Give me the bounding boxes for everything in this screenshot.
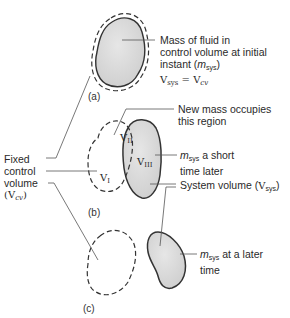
label-short-time-later: msys a short time later	[180, 149, 234, 177]
panel-a-shapes	[92, 14, 149, 91]
control-volume-c	[87, 230, 135, 294]
caption-b: (b)	[88, 207, 100, 218]
region-label-I: VI	[100, 172, 110, 187]
region-label-II: VII	[120, 132, 133, 147]
label-fixed-control-volume: Fixed control volume (Vcv)	[4, 153, 38, 204]
panel-c-shapes	[87, 230, 185, 294]
region-label-III: VIII	[137, 156, 153, 171]
label-new-mass: New mass occupies this region	[178, 103, 271, 127]
caption-a: (a)	[88, 91, 100, 102]
label-system-volume: System volume (Vsys)	[180, 179, 279, 195]
system-blob-a	[96, 18, 145, 87]
caption-c: (c)	[83, 303, 95, 314]
label-later-time: msys at a later time	[200, 248, 263, 276]
label-mass-fluid: Mass of fluid in control volume at initi…	[160, 34, 267, 89]
system-blob-c	[147, 232, 185, 288]
